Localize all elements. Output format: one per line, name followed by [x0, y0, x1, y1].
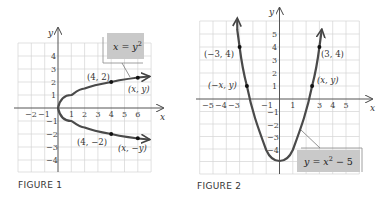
svg-text:3: 3	[51, 65, 56, 74]
figure-2-point-x-y	[310, 84, 314, 88]
figure-2-x-axis-label: x	[370, 103, 375, 113]
figure-2-label-minus-x-y: (−x, y)	[208, 80, 237, 90]
figure-1: x y −2 −1 1 2 3 4 5 6 4 3 2 1 −1 −2 −3 −…	[14, 28, 165, 190]
figure-2-y-axis-label: y	[268, 7, 275, 17]
svg-text:−2: −2	[267, 121, 279, 130]
svg-text:1: 1	[272, 82, 277, 91]
svg-text:−1: −1	[267, 108, 279, 117]
svg-text:5: 5	[272, 30, 277, 39]
figure-1-label-x-y: (x, y)	[128, 84, 150, 94]
svg-text:−2: −2	[46, 130, 58, 139]
svg-text:−4: −4	[46, 156, 58, 165]
figure-1-label-4-2: (4, 2)	[87, 72, 110, 82]
svg-text:4: 4	[51, 52, 56, 61]
svg-text:5: 5	[122, 110, 127, 119]
svg-text:−5: −5	[202, 101, 214, 110]
svg-text:−1: −1	[46, 117, 58, 126]
svg-text:3: 3	[317, 101, 322, 110]
svg-text:4: 4	[330, 101, 335, 110]
figure-1-point-x-y	[136, 76, 140, 80]
svg-text:2: 2	[51, 78, 56, 87]
svg-text:4: 4	[272, 43, 277, 52]
svg-text:2: 2	[82, 110, 87, 119]
figure-2-point-minus-3-4	[238, 45, 242, 49]
figure-1-label-x-minus-y: (x, −y)	[118, 143, 147, 153]
svg-text:2: 2	[272, 69, 277, 78]
svg-text:−3: −3	[46, 143, 58, 152]
svg-text:4: 4	[109, 110, 114, 119]
figure-1-equation: x = y2	[113, 40, 142, 52]
figure-2: x y −5 −4 −3 −1 1 3 4 5 5 4 3 2 1 −1 −2 …	[196, 7, 375, 191]
figure-2-label-3-4: (3, 4)	[321, 49, 344, 59]
figure-1-leader-line	[122, 63, 130, 77]
figure-1-x-axis-label: x	[160, 112, 165, 122]
svg-text:1: 1	[290, 101, 295, 110]
svg-text:1: 1	[51, 91, 56, 100]
figure-1-caption: FIGURE 1	[18, 180, 62, 190]
figure-1-label-4-minus-2: (4, −2)	[77, 137, 107, 147]
svg-text:1: 1	[69, 110, 74, 119]
figure-2-label-x-y: (x, y)	[317, 75, 339, 85]
svg-text:−4: −4	[215, 101, 227, 110]
figure-1-point-x-minus-y	[136, 136, 140, 140]
figures-canvas: x y −2 −1 1 2 3 4 5 6 4 3 2 1 −1 −2 −3 −…	[0, 0, 389, 205]
figure-2-caption: FIGURE 2	[197, 181, 241, 191]
figure-2-point-minus-x-y	[245, 84, 249, 88]
svg-text:5: 5	[344, 101, 349, 110]
figure-1-x-ticks: −2 −1 1 2 3 4 5 6	[25, 110, 140, 119]
svg-text:3: 3	[272, 56, 277, 65]
figure-2-equation: y = x2 − 5	[303, 155, 353, 167]
figure-2-y-ticks: 5 4 3 2 1 −1 −2 −3 −4	[267, 30, 279, 155]
svg-text:−3: −3	[267, 133, 279, 142]
figure-1-point-4-minus-2	[109, 132, 113, 136]
svg-text:6: 6	[135, 110, 140, 119]
figure-2-label-minus-3-4: (−3, 4)	[204, 49, 234, 59]
svg-text:−2: −2	[25, 110, 37, 119]
figure-2-leader-line	[301, 130, 320, 148]
figure-1-y-axis-label: y	[47, 28, 54, 38]
svg-text:3: 3	[96, 110, 101, 119]
svg-text:−3: −3	[228, 101, 240, 110]
